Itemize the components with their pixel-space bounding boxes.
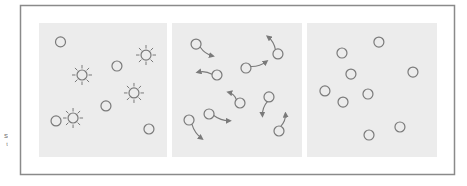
panel-moving xyxy=(172,23,302,157)
panel-still xyxy=(307,23,437,157)
panel-background xyxy=(39,23,167,157)
molecule-diagram xyxy=(0,0,467,186)
panel-heated xyxy=(39,23,167,157)
panel-background xyxy=(307,23,437,157)
